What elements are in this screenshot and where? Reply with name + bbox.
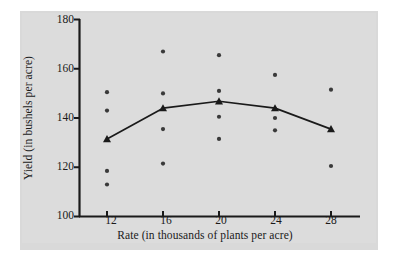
y-tick-label-100: 100	[44, 209, 74, 221]
data-point	[161, 91, 165, 95]
data-point	[161, 161, 165, 165]
x-axis-title: Rate (in thousands of plants per acre)	[72, 229, 338, 241]
y-tick-label-160: 160	[44, 62, 74, 74]
scatter-plot: Yield (in bushels per acre) Rate (in tho…	[0, 0, 404, 261]
y-axis-title: Yield (in bushels per acre)	[22, 33, 34, 203]
data-point	[217, 53, 221, 57]
y-tick-label-180: 180	[44, 13, 74, 25]
data-point	[217, 115, 221, 119]
mean-marker	[103, 135, 111, 142]
data-point	[329, 88, 333, 92]
data-points	[105, 49, 333, 186]
data-point	[217, 137, 221, 141]
data-point	[329, 164, 333, 168]
x-tick-label-20: 20	[206, 214, 236, 226]
data-point	[161, 127, 165, 131]
x-tick-label-24: 24	[261, 214, 291, 226]
data-point	[273, 73, 277, 77]
mean-markers	[103, 97, 335, 142]
x-tick-label-12: 12	[96, 214, 126, 226]
x-tick-label-28: 28	[316, 214, 346, 226]
data-point	[273, 116, 277, 120]
data-point	[161, 49, 165, 53]
data-point	[105, 182, 109, 186]
data-point	[217, 89, 221, 93]
mean-polyline	[107, 101, 331, 139]
mean-trend-line	[107, 101, 331, 139]
data-point	[273, 128, 277, 132]
data-point	[105, 90, 109, 94]
data-point	[105, 169, 109, 173]
figure-container: Yield (in bushels per acre) Rate (in tho…	[0, 0, 404, 261]
y-tick-label-120: 120	[44, 160, 74, 172]
y-tick-label-140: 140	[44, 111, 74, 123]
x-tick-label-16: 16	[151, 214, 181, 226]
data-point	[105, 109, 109, 113]
